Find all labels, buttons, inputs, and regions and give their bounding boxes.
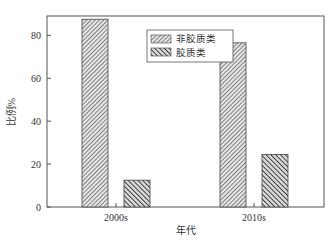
legend-label-colloid: 胶质类 <box>176 47 206 58</box>
legend-swatch-colloid <box>151 48 171 56</box>
y-tick-label: 80 <box>31 30 41 41</box>
legend: 非胶质类 胶质类 <box>147 30 233 62</box>
bar-non-colloid-2000s <box>82 19 108 207</box>
x-tick-label: 2010s <box>242 212 266 223</box>
y-tick-label: 20 <box>31 159 41 170</box>
legend-swatch-non-colloid <box>151 35 171 43</box>
bar-colloid-2000s <box>124 180 150 207</box>
bar-chart: 020406080 2000s2010s 比例% 年代 非胶质类 胶质类 <box>0 0 335 246</box>
y-tick-label: 0 <box>36 202 41 213</box>
x-axis-title: 年代 <box>176 224 196 236</box>
legend-label-non-colloid: 非胶质类 <box>176 33 216 44</box>
y-axis-title: 比例% <box>5 98 17 126</box>
x-tick-label: 2000s <box>104 212 128 223</box>
y-tick-label: 40 <box>31 116 41 127</box>
bar-colloid-2010s <box>262 154 288 207</box>
y-tick-label: 60 <box>31 73 41 84</box>
bar-non-colloid-2010s <box>220 43 246 207</box>
y-axis: 020406080 <box>31 30 51 213</box>
